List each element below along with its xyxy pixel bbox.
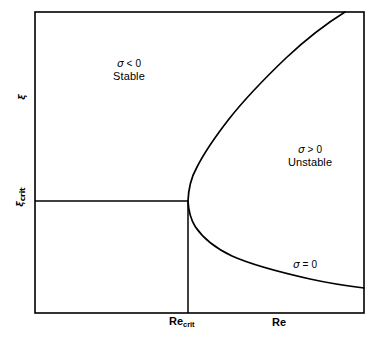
- annotation-stable-region: σ < 0 Stable: [88, 57, 170, 84]
- neutral-curve-lower-branch: [188, 201, 364, 288]
- stable-state-label: Stable: [88, 70, 170, 83]
- re-crit-subscript: crit: [183, 320, 194, 329]
- neutral-relation: = 0: [303, 259, 317, 270]
- re-crit-base: Re: [169, 315, 183, 327]
- y-axis-label-text: ξ: [17, 94, 27, 99]
- sigma-symbol: σ: [298, 143, 305, 155]
- unstable-relation: > 0: [308, 144, 322, 155]
- stable-condition: σ < 0: [88, 57, 170, 70]
- stability-diagram-figure: σ < 0 Stable σ > 0 Unstable σ = 0 Re Rec…: [0, 0, 382, 343]
- annotation-neutral-curve: σ = 0: [276, 258, 334, 271]
- y-axis-label: ξ: [17, 73, 27, 121]
- unstable-state-label: Unstable: [268, 156, 352, 169]
- sigma-symbol: σ: [117, 57, 124, 69]
- xi-crit-subscript: crit: [18, 187, 27, 201]
- unstable-condition: σ > 0: [268, 143, 352, 156]
- neutral-curve-upper-branch: [188, 12, 345, 201]
- stable-relation: < 0: [127, 58, 141, 69]
- x-axis-tick-re-crit: Recrit: [169, 315, 194, 327]
- plot-canvas: [0, 0, 382, 343]
- y-axis-tick-xi-crit: ξcrit: [15, 173, 25, 221]
- annotation-unstable-region: σ > 0 Unstable: [268, 143, 352, 170]
- x-axis-label-text: Re: [272, 316, 286, 328]
- sigma-symbol: σ: [293, 258, 300, 270]
- neutral-condition: σ = 0: [276, 258, 334, 271]
- x-axis-label: Re: [272, 316, 286, 328]
- xi-crit-base: ξ: [15, 201, 25, 206]
